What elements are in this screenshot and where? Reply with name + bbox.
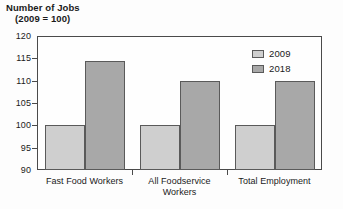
- x-axis-label-line: All Foodservice: [148, 176, 210, 187]
- legend-swatch-icon-2018: [252, 65, 264, 73]
- bar-2018-2: [275, 81, 315, 170]
- bar-2018-0: [85, 61, 125, 170]
- y-axis: 9095100105110115120: [0, 30, 31, 176]
- y-tick-label: 120: [16, 31, 31, 41]
- bar-2009-1: [140, 125, 180, 170]
- x-axis-label-2: Total Employment: [238, 176, 310, 187]
- legend-label-2009: 2009: [269, 48, 291, 59]
- x-axis-labels: Fast Food WorkersAll FoodserviceWorkersT…: [37, 176, 322, 206]
- bar-2018-1: [180, 81, 220, 170]
- chart-legend: 2009 2018: [252, 46, 314, 76]
- x-tick-mark: [132, 170, 133, 175]
- bar-2009-0: [45, 125, 85, 170]
- x-axis-label-1: All FoodserviceWorkers: [148, 176, 210, 199]
- chart-title-block: Number of Jobs (2009 = 100): [6, 3, 80, 24]
- y-tick-label: 90: [21, 165, 31, 175]
- y-tick-label: 105: [16, 98, 31, 108]
- y-tick-label: 95: [21, 143, 31, 153]
- y-tick-label: 115: [16, 53, 31, 63]
- bar-2009-2: [235, 125, 275, 170]
- y-tick-label: 100: [16, 120, 31, 130]
- legend-swatch-icon-2009: [252, 50, 264, 58]
- x-axis-label-line: Total Employment: [238, 176, 310, 187]
- legend-item-2018[interactable]: 2018: [252, 61, 314, 76]
- chart-subtitle: (2009 = 100): [6, 14, 80, 25]
- bar-chart: Number of Jobs (2009 = 100) 909510010511…: [0, 0, 343, 209]
- y-tick-label: 110: [16, 76, 31, 86]
- legend-label-2018: 2018: [269, 63, 291, 74]
- x-axis-label-line: Fast Food Workers: [46, 176, 123, 187]
- legend-item-2009[interactable]: 2009: [252, 46, 314, 61]
- x-axis-label-line: Workers: [148, 187, 210, 198]
- x-axis-label-0: Fast Food Workers: [46, 176, 123, 187]
- x-tick-mark: [227, 170, 228, 175]
